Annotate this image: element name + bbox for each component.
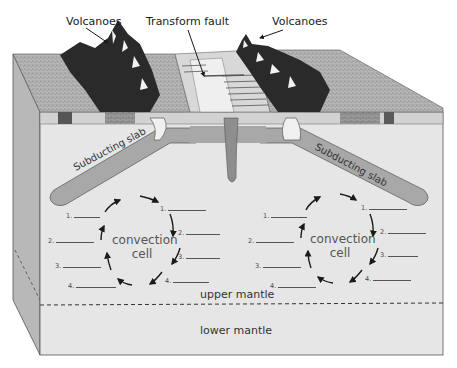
blank-left-cell-l4[interactable]: 4. [68, 283, 116, 290]
blank-right-cell-l4[interactable]: 4. [270, 283, 316, 290]
convection-cell-right-line1: convection [310, 233, 370, 245]
blank-left-cell-l2[interactable]: 2. [48, 238, 94, 245]
blank-right-cell-r1[interactable]: 1. [361, 205, 407, 212]
plate-tectonics-diagram: Volcanoes Transform fault Volcanoes Subd… [0, 0, 457, 368]
blank-left-cell-r4[interactable]: 4. [165, 278, 209, 285]
blank-right-cell-r4[interactable]: 4. [365, 276, 411, 283]
blank-right-cell-l2[interactable]: 2. [248, 238, 294, 245]
blank-left-cell-r1[interactable]: 1. [160, 206, 206, 213]
volcanoes-right-label: Volcanoes [272, 16, 327, 27]
blank-left-cell-r2[interactable]: 2. [178, 230, 220, 237]
blank-right-cell-r3[interactable]: 3. [380, 252, 418, 259]
blank-left-cell-r3[interactable]: 3. [178, 254, 220, 261]
transform-fault-label: Transform fault [146, 16, 229, 27]
blank-left-cell-l3[interactable]: 3. [55, 263, 101, 270]
blank-left-cell-l1[interactable]: 1. [66, 213, 100, 220]
convection-cell-right-line2: cell [310, 247, 370, 259]
magma-root-right [282, 118, 300, 140]
blank-right-cell-l1[interactable]: 1. [263, 213, 307, 220]
blank-right-cell-r2[interactable]: 2. [380, 229, 426, 236]
convection-cell-left-label: convection cell [112, 234, 172, 260]
convection-cell-left-line2: cell [112, 248, 172, 260]
upper-mantle-label: upper mantle [200, 289, 274, 300]
block-diagram-graphic [0, 0, 457, 368]
convection-cell-left-line1: convection [112, 234, 172, 246]
blank-right-cell-l3[interactable]: 3. [255, 263, 301, 270]
convection-cell-right-label: convection cell [310, 233, 370, 259]
volcanoes-left-label: Volcanoes [66, 16, 121, 27]
lower-mantle-label: lower mantle [200, 325, 272, 336]
